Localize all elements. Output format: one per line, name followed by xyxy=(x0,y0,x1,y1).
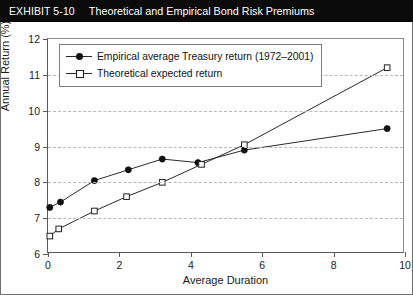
data-point-marker-open-square xyxy=(384,65,390,71)
y-axis-title: Annual Return (%) xyxy=(0,0,11,146)
x-axis-tick xyxy=(48,252,49,257)
x-axis-tick-label: 4 xyxy=(188,259,194,271)
y-axis-tick-label: 9 xyxy=(34,141,40,153)
x-axis-tick xyxy=(405,252,406,257)
y-axis-tick-label: 11 xyxy=(29,69,40,81)
y-gridline xyxy=(48,182,403,183)
filled-circle-marker-icon xyxy=(66,52,92,62)
y-axis-tick-label: 8 xyxy=(34,176,40,188)
y-gridline xyxy=(48,147,403,148)
data-point-marker-filled-circle xyxy=(159,156,165,162)
y-axis-tick xyxy=(43,147,48,148)
chart-plot-wrapper: Annual Return (%) Average Duration 67891… xyxy=(1,22,413,295)
series-line xyxy=(50,68,387,236)
legend-label-empirical: Empirical average Treasury return (1972–… xyxy=(97,51,313,62)
series-line xyxy=(50,129,387,208)
x-axis-tick-label: 6 xyxy=(259,259,265,271)
x-axis-tick xyxy=(119,252,120,257)
x-axis-tick-label: 0 xyxy=(45,259,51,271)
data-point-marker-open-square xyxy=(199,162,205,168)
x-axis-tick-label: 10 xyxy=(399,259,411,271)
exhibit-number-label: EXHIBIT 5-10 xyxy=(9,5,75,17)
data-point-marker-open-square xyxy=(124,194,130,200)
y-gridline xyxy=(48,111,403,112)
x-axis-tick xyxy=(191,252,192,257)
y-axis-tick xyxy=(43,182,48,183)
data-point-marker-open-square xyxy=(92,208,98,214)
y-axis-tick xyxy=(43,75,48,76)
chart-legend: Empirical average Treasury return (1972–… xyxy=(59,44,322,87)
y-axis-tick-label: 6 xyxy=(34,248,40,260)
data-point-marker-filled-circle xyxy=(384,125,390,131)
legend-item-empirical: Empirical average Treasury return (1972–… xyxy=(66,49,313,64)
y-axis-tick xyxy=(43,39,48,40)
x-axis-tick-label: 2 xyxy=(116,259,122,271)
y-axis-tick-label: 10 xyxy=(28,105,40,117)
data-point-marker-open-square xyxy=(47,233,53,239)
y-axis-tick xyxy=(43,111,48,112)
exhibit-title: Theoretical and Empirical Bond Risk Prem… xyxy=(89,5,315,17)
open-square-marker-icon xyxy=(66,69,92,79)
y-axis-tick-label: 12 xyxy=(28,33,40,45)
exhibit-figure-page: EXHIBIT 5-10 Theoretical and Empirical B… xyxy=(0,0,413,295)
data-point-marker-filled-circle xyxy=(47,204,53,210)
x-axis-title: Average Duration xyxy=(47,274,404,286)
y-axis-tick-label: 7 xyxy=(34,212,40,224)
legend-label-theoretical: Theoretical expected return xyxy=(97,68,222,79)
chart-figure-frame: Annual Return (%) Average Duration 67891… xyxy=(0,22,413,295)
data-point-marker-filled-circle xyxy=(125,167,131,173)
x-axis-tick-label: 8 xyxy=(331,259,337,271)
y-axis-tick xyxy=(43,218,48,219)
y-gridline xyxy=(48,218,403,219)
x-axis-tick xyxy=(334,252,335,257)
data-point-marker-open-square xyxy=(56,226,62,232)
x-axis-tick xyxy=(262,252,263,257)
legend-item-theoretical: Theoretical expected return xyxy=(66,66,313,81)
data-point-marker-filled-circle xyxy=(57,199,63,205)
exhibit-header-bar: EXHIBIT 5-10 Theoretical and Empirical B… xyxy=(0,0,413,22)
